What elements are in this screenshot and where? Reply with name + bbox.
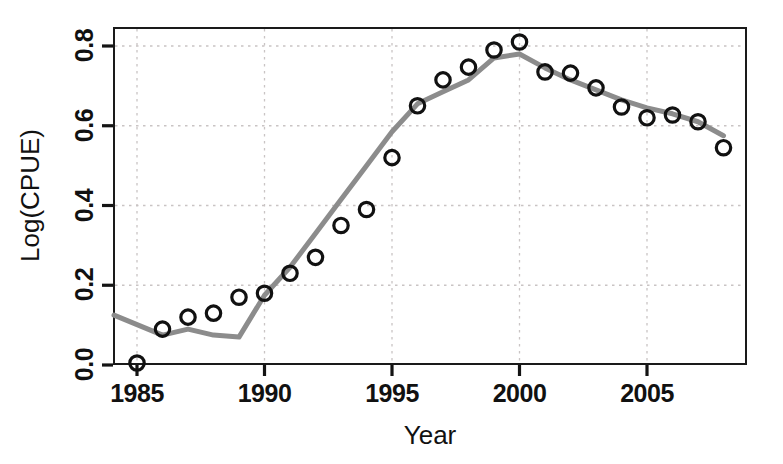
data-point-1989 <box>232 290 246 304</box>
y-tick-label-0.6: 0.6 <box>70 103 99 147</box>
fitted-trend-line <box>114 54 724 337</box>
y-axis-title: Log(CPUE) <box>15 111 46 281</box>
x-axis-title: Year <box>350 420 510 451</box>
gridlines <box>115 29 745 363</box>
data-point-1987 <box>181 310 195 324</box>
x-tick-label-1995: 1995 <box>347 379 437 408</box>
data-point-1992 <box>308 250 322 264</box>
chart-figure: 0.00.20.40.60.8 19851990199520002005 Log… <box>0 0 783 464</box>
data-point-2008 <box>716 140 730 154</box>
y-tick-label-0.2: 0.2 <box>70 263 99 307</box>
data-point-1994 <box>359 202 373 216</box>
data-point-1999 <box>487 43 501 57</box>
data-point-markers <box>130 35 731 370</box>
data-point-1993 <box>334 218 348 232</box>
x-tick-label-1990: 1990 <box>220 379 310 408</box>
data-point-2005 <box>640 111 654 125</box>
y-tick-label-0.4: 0.4 <box>70 183 99 227</box>
x-tick-label-1985: 1985 <box>92 379 182 408</box>
data-point-1988 <box>206 306 220 320</box>
x-tick-label-2005: 2005 <box>602 379 692 408</box>
data-point-1997 <box>436 73 450 87</box>
x-tick-label-2000: 2000 <box>475 379 565 408</box>
y-tick-label-0.8: 0.8 <box>70 24 99 68</box>
data-point-1998 <box>461 60 475 74</box>
